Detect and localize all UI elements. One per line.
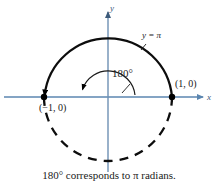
angle-label: 180°	[112, 68, 133, 79]
y-axis-label: y	[110, 4, 114, 13]
point-label-right: (1, 0)	[175, 79, 197, 89]
point-label-left: (−1, 0)	[39, 103, 66, 113]
point-marker-right	[169, 94, 175, 100]
x-axis-label: x	[207, 93, 211, 102]
unit-circle-diagram	[0, 0, 218, 184]
figure-caption: 180° corresponds to π radians.	[0, 169, 218, 181]
arc-label: y = π	[142, 31, 161, 40]
angle-label-leader-line	[122, 84, 130, 93]
point-marker-left	[41, 94, 47, 100]
unit-circle-figure: (1, 0) (−1, 0) 180° y = π y x 180° corre…	[0, 0, 218, 184]
